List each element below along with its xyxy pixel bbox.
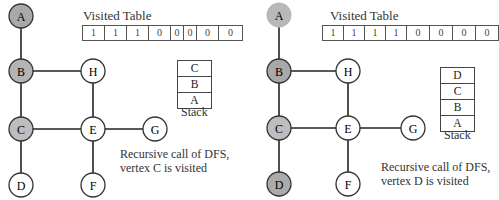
visited-cell: 1 — [83, 26, 105, 40]
visited-cell: 0 — [219, 26, 242, 40]
caption-line: Recursive call of DFS, — [381, 160, 490, 174]
svg-text:D: D — [17, 179, 26, 193]
visited-cell: 1 — [365, 26, 386, 40]
node-b: B — [9, 59, 33, 83]
stack-label: Stack — [444, 128, 471, 143]
svg-text:G: G — [409, 122, 418, 136]
node-h: H — [336, 59, 360, 83]
svg-text:B: B — [17, 65, 25, 79]
node-e: E — [81, 117, 105, 141]
stack-cell: C — [441, 84, 474, 100]
stack: D C B A — [440, 67, 475, 132]
svg-text:F: F — [90, 179, 97, 193]
svg-text:C: C — [275, 122, 283, 136]
visited-cell: 1 — [344, 26, 365, 40]
node-f: F — [336, 172, 360, 196]
svg-text:B: B — [275, 65, 283, 79]
visited-cell: 0 — [407, 26, 430, 40]
visited-table: 1 1 1 1 0 0 0 0 — [322, 25, 499, 41]
node-f: F — [81, 173, 105, 197]
stack-cell: C — [178, 61, 211, 77]
caption: Recursive call of DFS, vertex D is visit… — [381, 160, 490, 188]
svg-text:C: C — [17, 123, 25, 137]
visited-table-title: Visited Table — [83, 8, 151, 24]
svg-text:H: H — [89, 65, 98, 79]
stack-cell: B — [178, 77, 211, 93]
caption-line: vertex C is visited — [120, 161, 229, 175]
stack-cell: D — [441, 68, 474, 84]
visited-cell: 1 — [386, 26, 407, 40]
visited-cell: 0 — [476, 26, 498, 40]
visited-table: 1 1 1 0 0 0 0 0 — [82, 25, 243, 41]
node-c: C — [267, 116, 291, 140]
stack-cell: B — [441, 100, 474, 116]
caption: Recursive call of DFS, vertex C is visit… — [120, 147, 229, 175]
visited-cell: 1 — [105, 26, 127, 40]
caption-line: Recursive call of DFS, — [120, 147, 229, 161]
visited-cell: 1 — [323, 26, 344, 40]
caption-line: vertex D is visited — [381, 174, 490, 188]
node-h: H — [81, 59, 105, 83]
visited-cell: 1 — [127, 26, 149, 40]
svg-text:D: D — [275, 178, 284, 192]
node-d: D — [9, 173, 33, 197]
svg-text:A: A — [17, 10, 26, 24]
visited-cell: 0 — [149, 26, 171, 40]
svg-text:E: E — [344, 122, 351, 136]
node-b: B — [267, 59, 291, 83]
svg-text:A: A — [275, 9, 284, 23]
visited-cell: 0 — [184, 26, 197, 40]
svg-text:G: G — [151, 123, 160, 137]
visited-cell: 0 — [430, 26, 453, 40]
node-g: G — [401, 116, 425, 140]
node-a: A — [9, 4, 33, 28]
svg-text:F: F — [345, 178, 352, 192]
stack-label: Stack — [181, 105, 208, 120]
visited-table-title: Visited Table — [330, 8, 398, 24]
node-e: E — [336, 116, 360, 140]
node-d: D — [267, 172, 291, 196]
node-a: A — [267, 3, 292, 28]
svg-text:H: H — [344, 65, 353, 79]
visited-cell: 0 — [197, 26, 219, 40]
visited-cell: 0 — [453, 26, 476, 40]
svg-text:E: E — [89, 123, 96, 137]
node-g: G — [143, 117, 167, 141]
node-c: C — [9, 117, 33, 141]
visited-cell: 0 — [171, 26, 184, 40]
stack: C B A — [177, 60, 212, 109]
